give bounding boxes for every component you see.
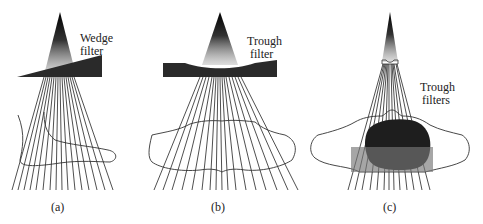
beam-rays (12, 77, 113, 190)
source-cone-icon (202, 12, 238, 65)
panel-a-label-2: filter (80, 44, 103, 58)
source-cone-icon (382, 12, 398, 62)
target-box (351, 147, 433, 172)
panel-c-trough-filters: Trough filters (c) (311, 12, 470, 214)
panel-c-label-1: Trough (420, 80, 455, 94)
panel-c-caption: (c) (383, 200, 396, 214)
patient-contour (149, 120, 295, 172)
panel-a-caption: (a) (51, 200, 64, 214)
beam-rays (154, 77, 298, 190)
panel-c-label-2: filters (422, 93, 450, 107)
panel-b-label-2: filter (250, 47, 273, 61)
panel-a-wedge-filter: Wedge filter (a) (12, 12, 116, 214)
panel-b-caption: (b) (211, 200, 225, 214)
patient-contour (18, 112, 116, 166)
panel-b-label-1: Trough (247, 34, 282, 48)
panel-b-trough-filter: Trough filter (b) (149, 12, 298, 214)
panel-a-label-1: Wedge (80, 31, 113, 45)
